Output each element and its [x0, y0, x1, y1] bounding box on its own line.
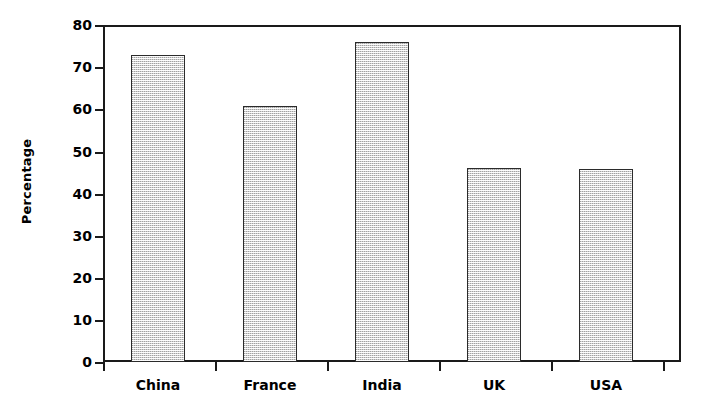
x-tick-mark — [215, 362, 217, 371]
y-axis-tick-label: 70 — [73, 60, 92, 74]
y-axis-tick-label: 80 — [73, 18, 92, 32]
y-axis-title: Percentage — [12, 0, 42, 362]
y-axis-tick-label: 50 — [73, 145, 92, 159]
bar-uk — [467, 168, 521, 362]
y-axis-tick-label: 40 — [73, 187, 92, 201]
x-tick-mark — [663, 362, 665, 371]
bar-usa — [579, 169, 633, 362]
y-axis-tick-label: 0 — [82, 355, 92, 369]
x-axis-tick-label-india: India — [362, 377, 401, 393]
x-tick-mark — [327, 362, 329, 371]
y-axis-tick-label: 60 — [73, 102, 92, 116]
bar-india — [355, 42, 409, 362]
x-axis-tick-label-usa: USA — [590, 377, 622, 393]
x-axis-tick-label-france: France — [244, 377, 297, 393]
y-axis-tick-label: 20 — [73, 271, 92, 285]
x-tick-mark — [551, 362, 553, 371]
x-tick-mark — [103, 362, 105, 371]
bar-china — [131, 55, 185, 362]
x-tick-mark — [439, 362, 441, 371]
y-axis-title-label: Percentage — [20, 138, 35, 224]
y-axis-tick-label: 30 — [73, 229, 92, 243]
bar-france — [243, 106, 297, 362]
x-axis-tick-label-china: China — [136, 377, 180, 393]
y-axis-tick-label: 10 — [73, 313, 92, 327]
x-axis-tick-label-uk: UK — [483, 377, 505, 393]
bar-chart: Percentage 80 70 60 50 40 30 20 10 0 Chi… — [0, 0, 704, 415]
